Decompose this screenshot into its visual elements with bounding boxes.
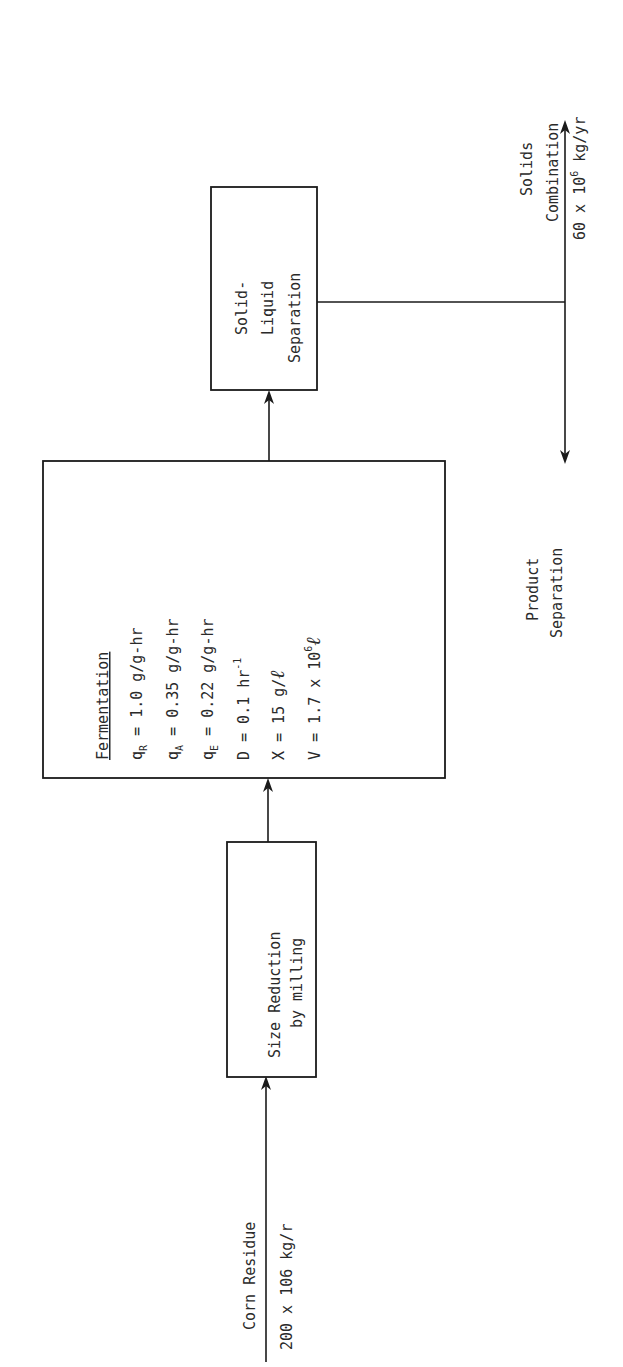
param-value: = 0.35 g/g-hr xyxy=(164,619,182,745)
param-value: = 0.22 g/g-hr xyxy=(199,619,217,745)
solids-line-2: Combination xyxy=(544,123,562,222)
product-line-2: Separation xyxy=(548,548,566,638)
product-line-1: Product xyxy=(524,558,542,621)
param-value: = 1.0 g/g-hr xyxy=(128,628,146,745)
fermentation-title: Fermentation xyxy=(94,652,112,760)
size-reduction-line-1: Size Reduction xyxy=(266,932,284,1058)
process-flow-diagram: Corn Residue 200 x 106 kg/r Size Reducti… xyxy=(0,0,623,1367)
separation-line-2: Liquid xyxy=(259,281,277,335)
fermentation-param-1: qA = 0.35 g/g-hr xyxy=(164,619,185,761)
solids-line-1: Solids xyxy=(518,142,536,196)
param-symbol: X xyxy=(270,751,288,760)
fermentation-param-2: qE = 0.22 g/g-hr xyxy=(199,619,220,761)
param-superscript: -1 xyxy=(232,658,243,670)
liter-symbol-icon: ℓ xyxy=(265,670,289,679)
param-symbol: D xyxy=(235,751,253,760)
param-value: = 15 g/ xyxy=(270,679,288,751)
separation-line-3: Separation xyxy=(286,273,304,363)
input-rate: 200 x 106 kg/r xyxy=(278,1224,296,1350)
liter-symbol-icon: ℓ xyxy=(301,637,325,646)
input-rate-text: 200 x 106 kg/r xyxy=(278,1224,296,1350)
fermentation-param-0: qR = 1.0 g/g-hr xyxy=(128,628,149,760)
param-symbol: q xyxy=(164,751,182,760)
solids-rate: 60 x 106 kg/yr xyxy=(569,117,589,240)
param-value: = 1.7 x 10 xyxy=(306,652,324,751)
param-value: = 0.1 hr xyxy=(235,670,253,751)
separation-line-1: Solid- xyxy=(233,281,251,335)
size-reduction-line-2: by milling xyxy=(288,938,306,1028)
input-labels: Corn Residue 200 x 106 kg/r xyxy=(241,1222,296,1350)
input-label: Corn Residue xyxy=(241,1222,259,1330)
solids-rate-prefix: 60 x 10 xyxy=(571,177,589,240)
param-symbol: q xyxy=(128,751,146,760)
param-symbol: q xyxy=(199,751,217,760)
solids-rate-suffix: kg/yr xyxy=(571,117,589,171)
param-symbol: V xyxy=(306,751,324,760)
fermentation-param-3: D = 0.1 hr-1 xyxy=(232,658,253,760)
